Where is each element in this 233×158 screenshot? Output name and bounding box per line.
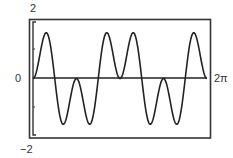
plot-area — [0, 0, 233, 158]
